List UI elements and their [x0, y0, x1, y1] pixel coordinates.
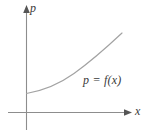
function-graph-figure: p x p = f(x) [0, 0, 149, 139]
vertical-axis-arrow-icon [23, 5, 30, 13]
vertical-axis-label: p [30, 2, 36, 14]
curve-equation-label: p = f(x) [83, 74, 121, 86]
graph-canvas [0, 0, 149, 139]
horizontal-axis-label: x [135, 105, 140, 117]
horizontal-axis-arrow-icon [124, 109, 132, 116]
